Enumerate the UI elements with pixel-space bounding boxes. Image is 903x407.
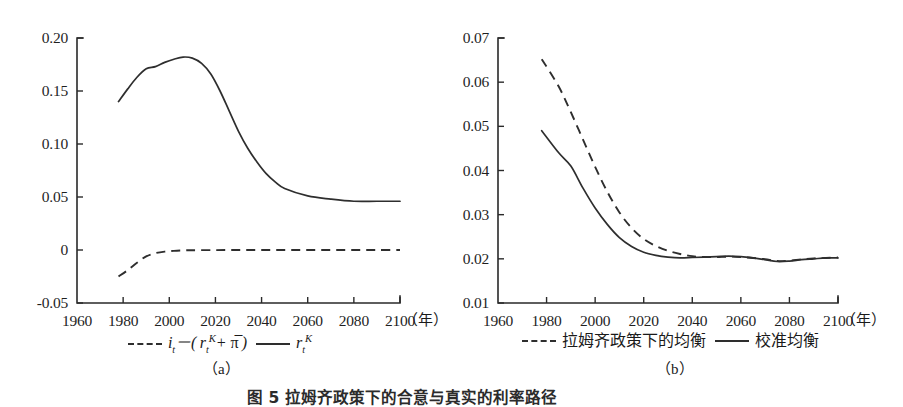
- chart-a-series-dashed: [119, 250, 400, 277]
- legend-label-calibrated-equilibrium: 校准均衡: [755, 333, 819, 349]
- legend-label-ramsey-equilibrium: 拉姆齐政策下的均衡: [562, 333, 706, 349]
- chart-a-legend: it－( rtK+ π̅ ) rtK: [70, 334, 370, 355]
- chart-b-x-axis-unit: （年）: [841, 313, 886, 328]
- dashed-line-swatch-icon: [128, 343, 162, 345]
- chart-a-ticks: [77, 38, 400, 303]
- x-tick-label: 1980: [526, 313, 568, 329]
- panel-b-sublabel: （b）: [656, 362, 694, 377]
- chart-b-ticks: [498, 38, 838, 303]
- y-tick-label: -0.05: [37, 295, 68, 311]
- chart-panel-b: 0.010.020.030.040.050.060.07 19601980200…: [440, 0, 903, 404]
- chart-b-series-dashed: [542, 59, 838, 261]
- x-tick-label: 1960: [56, 313, 98, 329]
- x-tick-label: 2020: [623, 313, 665, 329]
- x-tick-label: 2040: [671, 313, 713, 329]
- x-tick-label: 2080: [333, 313, 375, 329]
- legend-label-capital-return: rtK: [296, 334, 312, 355]
- legend-entry-real-rate-gap: it－( rtK+ π̅ ): [128, 334, 247, 355]
- legend-label-real-rate-gap: it－( rtK+ π̅ ): [168, 334, 247, 355]
- solid-line-swatch-icon: [715, 340, 749, 342]
- x-tick-label: 2080: [768, 313, 810, 329]
- y-tick-label: 0.01: [463, 295, 489, 311]
- x-tick-label: 1980: [102, 313, 144, 329]
- y-tick-label: 0.04: [463, 163, 489, 179]
- legend-entry-ramsey-equilibrium: 拉姆齐政策下的均衡: [522, 333, 706, 349]
- y-tick-label: 0.10: [42, 136, 68, 152]
- x-tick-label: 2000: [148, 313, 190, 329]
- y-tick-label: 0: [60, 242, 68, 258]
- figure-caption: 图 5 拉姆齐政策下的合意与真实的利率路径: [247, 391, 557, 407]
- y-tick-label: 0.20: [42, 30, 68, 46]
- chart-b-series-solid: [542, 131, 838, 262]
- x-tick-label: 2060: [287, 313, 329, 329]
- panel-a-sublabel: （a）: [203, 362, 240, 377]
- x-tick-label: 2040: [241, 313, 283, 329]
- chart-panel-a: -0.0500.050.100.150.20 19601980200020202…: [0, 0, 450, 404]
- y-tick-label: 0.06: [463, 74, 489, 90]
- chart-b-axes: [498, 38, 838, 303]
- x-tick-label: 1960: [477, 313, 519, 329]
- y-tick-label: 0.05: [463, 118, 489, 134]
- y-tick-label: 0.05: [42, 189, 68, 205]
- chart-a-series-solid: [119, 57, 400, 201]
- x-tick-label: 2000: [574, 313, 616, 329]
- x-tick-label: 2020: [194, 313, 236, 329]
- y-tick-label: 0.03: [463, 207, 489, 223]
- y-tick-label: 0.07: [463, 30, 489, 46]
- legend-entry-capital-return: rtK: [256, 334, 312, 355]
- y-tick-label: 0.02: [463, 251, 489, 267]
- y-tick-label: 0.15: [42, 83, 68, 99]
- legend-entry-calibrated-equilibrium: 校准均衡: [715, 333, 819, 349]
- x-tick-label: 2060: [720, 313, 762, 329]
- solid-line-swatch-icon: [256, 343, 290, 345]
- chart-a-axes: [77, 38, 400, 303]
- chart-b-legend: 拉姆齐政策下的均衡 校准均衡: [480, 333, 860, 349]
- dashed-line-swatch-icon: [522, 340, 556, 342]
